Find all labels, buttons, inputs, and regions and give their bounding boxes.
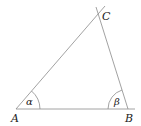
triangle-diagram: α β A B C [0,0,141,126]
side-bc [96,7,128,109]
vertex-label-a: A [10,112,19,125]
side-ac [16,6,105,109]
angle-arc-alpha [32,91,41,109]
vertex-label-c: C [102,10,111,23]
vertex-label-b: B [124,112,133,125]
angle-label-alpha: α [26,96,33,107]
angle-label-beta: β [113,96,120,107]
